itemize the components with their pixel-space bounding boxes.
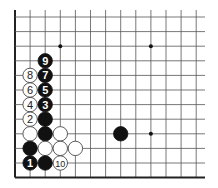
white-stone (53, 141, 67, 155)
black-stone: 9 (38, 54, 52, 68)
go-board: 98765432110 (0, 0, 218, 188)
white-stone: 10 (53, 156, 67, 170)
white-stone (68, 141, 82, 155)
black-stone: 5 (38, 83, 52, 97)
black-stone (38, 156, 52, 170)
black-stone (114, 127, 128, 141)
white-stone (53, 127, 67, 141)
black-stone: 7 (38, 68, 52, 82)
move-number: 2 (27, 113, 33, 125)
move-number: 10 (55, 159, 65, 169)
star-point (149, 44, 153, 48)
move-number: 4 (27, 99, 33, 111)
white-stone: 4 (23, 97, 37, 111)
white-stone (23, 127, 37, 141)
move-number: 7 (42, 69, 48, 81)
star-point (149, 132, 153, 136)
star-point (58, 44, 62, 48)
move-number: 9 (42, 55, 48, 67)
black-stone: 1 (23, 156, 37, 170)
white-stone: 6 (23, 83, 37, 97)
move-number: 5 (42, 84, 48, 96)
move-number: 1 (27, 157, 33, 169)
white-stone: 2 (23, 112, 37, 126)
white-stone (38, 141, 52, 155)
black-stone (38, 127, 52, 141)
white-stone: 8 (23, 68, 37, 82)
black-stone: 3 (38, 97, 52, 111)
move-number: 3 (42, 99, 48, 111)
move-number: 8 (27, 69, 33, 81)
move-number: 6 (27, 84, 33, 96)
black-stone (23, 141, 37, 155)
black-stone (38, 112, 52, 126)
